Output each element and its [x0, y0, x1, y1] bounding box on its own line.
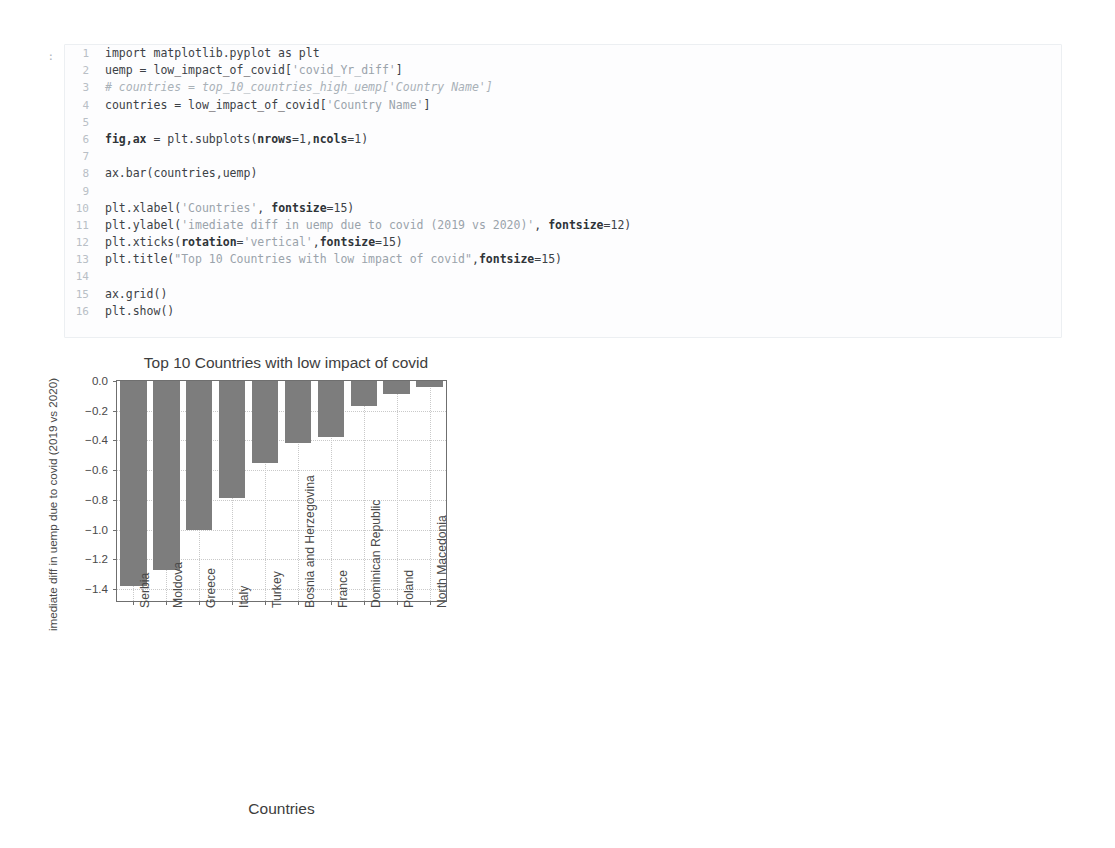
chart-x-tick-mark — [331, 601, 332, 605]
chart-y-tick-mark — [113, 530, 117, 531]
chart-x-tick-label: Greece — [204, 568, 218, 608]
code-line-number: 12 — [65, 234, 99, 251]
chart-bar — [285, 381, 311, 443]
code-line-number: 7 — [65, 148, 99, 165]
code-line: 7 — [65, 148, 1061, 165]
code-line-text: plt.xlabel('Countries', fontsize=15) — [99, 200, 354, 217]
chart-bar — [416, 381, 442, 387]
chart-bar — [219, 381, 245, 498]
code-line-number: 2 — [65, 62, 99, 79]
chart-y-tick-mark — [113, 381, 117, 382]
code-line-text: plt.title("Top 10 Countries with low imp… — [99, 251, 562, 268]
code-line: 13plt.title("Top 10 Countries with low i… — [65, 251, 1061, 268]
code-line-text: ax.bar(countries,uemp) — [99, 165, 257, 182]
chart-bar — [318, 381, 344, 437]
chart-x-tick-label: Poland — [402, 570, 416, 608]
chart-y-tick-label: −0.4 — [62, 433, 108, 446]
code-line-text: ax.grid() — [99, 286, 167, 303]
chart-bar — [383, 381, 409, 394]
code-line-text: # countries = top_10_countries_high_uemp… — [99, 79, 493, 96]
chart-bar — [186, 381, 212, 530]
chart-x-tick-mark — [133, 601, 134, 605]
code-line: 5 — [65, 114, 1061, 131]
code-line-number: 13 — [65, 251, 99, 268]
code-line-number: 8 — [65, 165, 99, 182]
code-line-text: plt.show() — [99, 303, 174, 320]
chart-bar — [351, 381, 377, 406]
code-line-text — [99, 148, 105, 165]
chart-x-axis-label: Countries — [116, 800, 447, 818]
code-line: 14 — [65, 268, 1061, 285]
code-line-text — [99, 114, 105, 131]
code-line-number: 11 — [65, 217, 99, 234]
code-line-text — [99, 268, 105, 285]
code-line-number: 1 — [65, 45, 99, 62]
code-line: 10plt.xlabel('Countries', fontsize=15) — [65, 200, 1061, 217]
code-line-text: countries = low_impact_of_covid['Country… — [99, 97, 430, 114]
chart-x-tick-mark — [364, 601, 365, 605]
code-line: 3# countries = top_10_countries_high_uem… — [65, 79, 1061, 96]
chart-bar — [120, 381, 146, 586]
chart-y-tick-mark — [113, 470, 117, 471]
chart-y-tick-label: −1.0 — [62, 522, 108, 535]
code-line-text: plt.xticks(rotation='vertical',fontsize=… — [99, 234, 403, 251]
chart-y-tick-label: −1.4 — [62, 582, 108, 595]
chart-y-tick-mark — [113, 440, 117, 441]
code-editor[interactable]: 1import matplotlib.pyplot as plt2uemp = … — [64, 44, 1062, 338]
code-line: 12plt.xticks(rotation='vertical',fontsiz… — [65, 234, 1061, 251]
chart-y-tick-mark — [113, 589, 117, 590]
chart-title: Top 10 Countries with low impact of covi… — [116, 354, 456, 372]
matplotlib-figure: imediate diff in uemp due to covid (2019… — [18, 348, 468, 838]
code-line-text: import matplotlib.pyplot as plt — [99, 45, 320, 62]
chart-x-tick-label: Moldova — [171, 562, 185, 608]
code-line-number: 16 — [65, 303, 99, 320]
chart-y-tick-label: −0.8 — [62, 492, 108, 505]
chart-x-tick-label: North Macedonia — [435, 515, 449, 608]
chart-x-tick-label: France — [336, 570, 350, 608]
chart-y-tick-label: 0.0 — [62, 374, 108, 387]
chart-y-tick-label: −0.6 — [62, 463, 108, 476]
chart-bar — [153, 381, 179, 570]
chart-y-tick-mark — [113, 559, 117, 560]
code-line-number: 14 — [65, 268, 99, 285]
chart-y-tick-mark — [113, 500, 117, 501]
chart-gridline-vertical — [430, 381, 431, 601]
chart-x-tick-label: Dominican Republic — [369, 500, 383, 608]
chart-x-tick-label: Italy — [237, 586, 251, 608]
code-line: 8ax.bar(countries,uemp) — [65, 165, 1061, 182]
chart-y-axis-label: imediate diff in uemp due to covid (2019… — [46, 355, 59, 655]
code-line-text — [99, 183, 105, 200]
code-line-number: 3 — [65, 79, 99, 96]
chart-gridline-vertical — [364, 381, 365, 601]
chart-x-tick-mark — [397, 601, 398, 605]
code-line-number: 4 — [65, 97, 99, 114]
code-line-number: 5 — [65, 114, 99, 131]
chart-y-tick-label: −0.2 — [62, 403, 108, 416]
code-line-number: 6 — [65, 131, 99, 148]
chart-x-tick-mark — [298, 601, 299, 605]
code-line: 2uemp = low_impact_of_covid['covid_Yr_di… — [65, 62, 1061, 79]
chart-y-tick-mark — [113, 411, 117, 412]
chart-x-tick-label: Bosnia and Herzegovina — [303, 475, 317, 608]
chart-x-tick-mark — [265, 601, 266, 605]
code-line: 16plt.show() — [65, 303, 1061, 320]
code-line-text: uemp = low_impact_of_covid['covid_Yr_dif… — [99, 62, 403, 79]
code-line: 4countries = low_impact_of_covid['Countr… — [65, 97, 1061, 114]
chart-y-tick-label: −1.2 — [62, 552, 108, 565]
chart-x-tick-mark — [166, 601, 167, 605]
notebook-code-cell[interactable]: : 1import matplotlib.pyplot as plt2uemp … — [24, 44, 1062, 338]
code-line-number: 10 — [65, 200, 99, 217]
code-line-number: 9 — [65, 183, 99, 200]
cell-prompt-label: : — [24, 50, 54, 63]
code-line-text: fig,ax = plt.subplots(nrows=1,ncols=1) — [99, 131, 368, 148]
chart-x-tick-label: Serbia — [138, 573, 152, 608]
chart-gridline-vertical — [397, 381, 398, 601]
chart-x-tick-label: Turkey — [270, 571, 284, 608]
chart-plot-area — [116, 380, 447, 602]
chart-bar — [252, 381, 278, 463]
code-line: 6fig,ax = plt.subplots(nrows=1,ncols=1) — [65, 131, 1061, 148]
chart-x-tick-mark — [199, 601, 200, 605]
code-line: 9 — [65, 183, 1061, 200]
code-line-number: 15 — [65, 286, 99, 303]
chart-x-tick-mark — [232, 601, 233, 605]
